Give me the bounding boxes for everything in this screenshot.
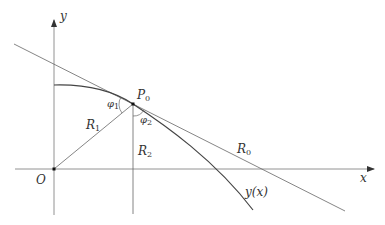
r1-sub: 1: [95, 124, 100, 133]
x-label-text: x: [360, 171, 367, 185]
origin-point: [53, 168, 56, 171]
r2-label: R2: [138, 145, 152, 159]
origin-label-text: O: [36, 173, 46, 187]
r0-sub: 0: [246, 148, 251, 157]
angle-arc-phi1: [119, 97, 122, 113]
y-label-text: y: [60, 9, 67, 23]
p0-sub: 0: [145, 94, 150, 103]
curve-y-of-x: [54, 85, 253, 210]
r1-label: R1: [86, 119, 100, 133]
curve-label: y(x): [245, 186, 268, 198]
tangent-line: [14, 44, 345, 211]
r2-sub: 2: [147, 150, 152, 159]
r1-main: R: [86, 118, 95, 132]
curve-label-text: y(x): [245, 185, 268, 199]
phi1-label: φ1: [107, 99, 119, 111]
phi2-sub: 2: [147, 118, 152, 127]
radius-r1: [54, 104, 133, 169]
diagram: y x O P0 φ1 φ2 R1 R2 R0 y(x): [0, 0, 385, 225]
x-axis-label: x: [360, 172, 367, 184]
phi1-sub: 1: [114, 102, 119, 111]
phi2-label: φ2: [140, 115, 152, 127]
y-axis-label: y: [60, 10, 67, 22]
p0-main: P: [137, 88, 145, 102]
r2-main: R: [138, 144, 147, 158]
phi1-main: φ: [107, 98, 114, 109]
r0-label: R0: [237, 143, 251, 157]
diagram-canvas: [0, 0, 385, 225]
point-p0: [132, 103, 135, 106]
p0-label: P0: [137, 89, 150, 103]
r0-main: R: [237, 142, 246, 156]
phi2-main: φ: [140, 114, 147, 125]
origin-label: O: [36, 174, 46, 186]
